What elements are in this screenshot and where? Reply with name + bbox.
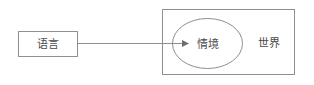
world-label: 世界 — [258, 37, 281, 50]
arrowhead-icon — [182, 40, 189, 47]
diagram-canvas: 语言 情境 世界 — [0, 0, 314, 85]
language-label: 语言 — [37, 38, 60, 51]
context-label: 情境 — [197, 37, 220, 51]
diagram-svg: 语言 情境 世界 — [0, 0, 314, 85]
